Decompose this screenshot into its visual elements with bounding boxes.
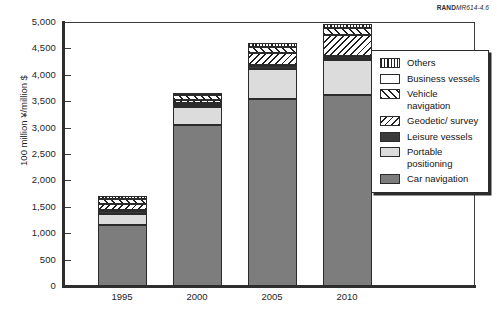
credit-suffix: MR614-4.6 xyxy=(456,4,489,11)
x-tick-label-2010: 2010 xyxy=(312,291,382,302)
bar-2005 xyxy=(248,43,297,286)
chart-figure: RANDMR614-4.6 100 million ¥/million $ 05… xyxy=(0,0,497,311)
legend-item-leisure[interactable]: Leisure vessels xyxy=(380,131,482,143)
bar-segment-vehicle xyxy=(323,28,372,34)
bar-segment-others xyxy=(173,93,222,96)
bar-segment-business xyxy=(173,103,222,106)
bar-segment-others xyxy=(323,24,372,28)
bar-segment-portable xyxy=(173,107,222,125)
y-tick-label: 3,000 xyxy=(4,122,56,133)
chart-legend: OthersBusiness vesselsVehicle navigation… xyxy=(371,50,489,193)
y-tick xyxy=(65,75,71,76)
bar-segment-car xyxy=(98,225,147,286)
bar-segment-vehicle xyxy=(248,47,297,53)
bar-2000 xyxy=(173,93,222,286)
bar-segment-car xyxy=(248,99,297,286)
legend-label: Others xyxy=(407,57,436,69)
y-tick-label: 3,500 xyxy=(4,95,56,106)
bar-segment-vehicle xyxy=(98,199,147,204)
y-tick-label: 0 xyxy=(4,280,56,291)
y-tick-label: 2,000 xyxy=(4,174,56,185)
y-tick-label: 1,000 xyxy=(4,227,56,238)
bar-2010 xyxy=(323,24,372,286)
y-tick xyxy=(65,154,71,155)
legend-item-others[interactable]: Others xyxy=(380,57,482,69)
y-tick-label: 4,500 xyxy=(4,42,56,53)
legend-label: Portable positioning xyxy=(407,146,482,169)
bar-segment-portable xyxy=(98,214,147,226)
y-tick xyxy=(65,180,71,181)
legend-item-portable[interactable]: Portable positioning xyxy=(380,146,482,169)
y-tick-label: 5,000 xyxy=(4,16,56,27)
legend-swatch-portable-icon xyxy=(380,147,400,157)
bar-segment-geodetic xyxy=(173,100,222,103)
bar-segment-geodetic xyxy=(323,35,372,56)
bar-segment-business xyxy=(323,56,372,59)
bar-segment-geodetic xyxy=(248,53,297,65)
bar-segment-portable xyxy=(248,69,297,99)
legend-label: Vehicle navigation xyxy=(407,88,482,111)
bar-segment-car xyxy=(323,95,372,286)
legend-label: Car navigation xyxy=(407,173,468,185)
legend-swatch-leisure-icon xyxy=(380,132,400,142)
legend-swatch-geodetic-icon xyxy=(380,116,400,126)
legend-item-car[interactable]: Car navigation xyxy=(380,173,482,185)
legend-label: Geodetic/ survey xyxy=(407,115,478,127)
bar-segment-geodetic xyxy=(98,204,147,210)
bar-segment-portable xyxy=(323,60,372,95)
legend-swatch-others-icon xyxy=(380,58,400,68)
bar-1995 xyxy=(98,196,147,286)
legend-swatch-vehicle-icon xyxy=(380,89,400,99)
legend-item-geodetic[interactable]: Geodetic/ survey xyxy=(380,115,482,127)
legend-item-vehicle[interactable]: Vehicle navigation xyxy=(380,88,482,111)
x-tick-label-2000: 2000 xyxy=(162,291,232,302)
y-tick xyxy=(65,207,71,208)
legend-swatch-car-icon xyxy=(380,174,400,184)
y-tick-label: 1,500 xyxy=(4,201,56,212)
bar-segment-business xyxy=(248,65,297,68)
y-tick xyxy=(65,101,71,102)
credit-prefix: RAND xyxy=(437,4,456,11)
legend-label: Business vessels xyxy=(407,73,480,85)
y-tick xyxy=(65,128,71,129)
bar-segment-business xyxy=(98,210,147,213)
y-tick-label: 4,000 xyxy=(4,69,56,80)
y-tick xyxy=(65,260,71,261)
legend-item-business[interactable]: Business vessels xyxy=(380,73,482,85)
y-tick xyxy=(65,22,71,23)
legend-label: Leisure vessels xyxy=(407,131,472,143)
y-tick-label: 2,500 xyxy=(4,148,56,159)
x-tick-label-1995: 1995 xyxy=(87,291,157,302)
source-credit: RANDMR614-4.6 xyxy=(437,4,489,11)
bar-segment-others xyxy=(248,43,297,47)
y-tick xyxy=(65,48,71,49)
y-tick xyxy=(65,233,71,234)
y-tick-label: 500 xyxy=(4,254,56,265)
bar-segment-vehicle xyxy=(173,95,222,100)
bar-segment-others xyxy=(98,196,147,199)
legend-swatch-business-icon xyxy=(380,74,400,84)
bar-segment-car xyxy=(173,125,222,286)
x-tick-label-2005: 2005 xyxy=(237,291,307,302)
